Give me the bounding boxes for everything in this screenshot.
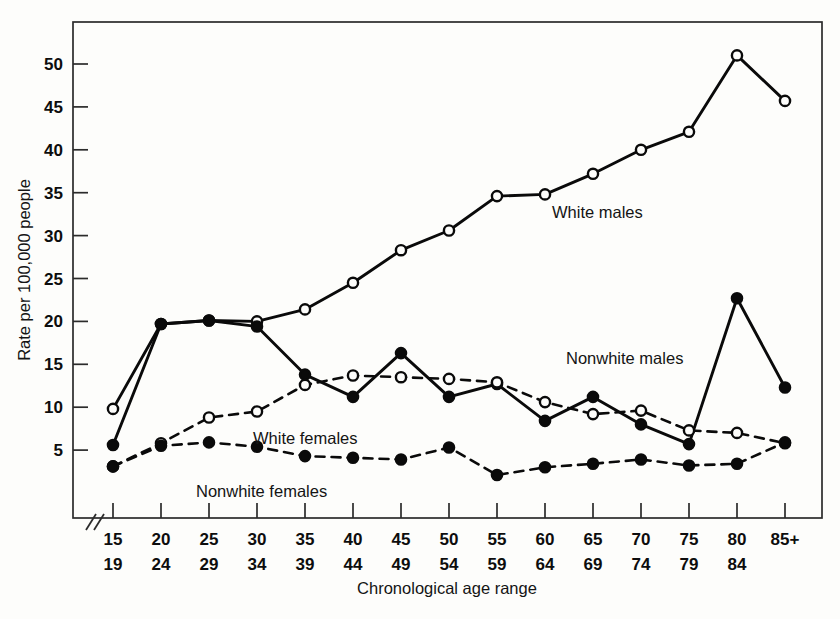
data-point xyxy=(636,145,646,155)
y-tick-label-15: 15 xyxy=(44,355,63,374)
x-tick-label-bottom-6: 49 xyxy=(392,555,411,574)
y-tick-label-5: 5 xyxy=(54,441,63,460)
data-point xyxy=(204,437,214,447)
data-point xyxy=(492,191,502,201)
data-point xyxy=(300,370,310,380)
x-tick-label-top-13: 80 xyxy=(728,530,747,549)
x-tick-label-bottom-5: 44 xyxy=(344,555,363,574)
data-point xyxy=(732,428,742,438)
x-tick-label-bottom-4: 39 xyxy=(296,555,315,574)
y-tick-label-25: 25 xyxy=(44,270,63,289)
data-point xyxy=(732,50,742,60)
data-point xyxy=(588,409,598,419)
data-point xyxy=(684,425,694,435)
data-point xyxy=(780,437,790,447)
data-point xyxy=(636,419,646,429)
data-point xyxy=(732,293,742,303)
data-point xyxy=(588,392,598,402)
x-tick-label-bottom-13: 84 xyxy=(728,555,747,574)
data-point xyxy=(684,439,694,449)
data-point xyxy=(348,278,358,288)
data-point xyxy=(108,461,118,471)
data-point xyxy=(108,404,118,414)
annotation-nonwhite-males: Nonwhite males xyxy=(566,349,683,367)
data-point xyxy=(444,374,454,384)
x-tick-label-top-0: 15 xyxy=(104,530,123,549)
x-tick-label-bottom-9: 64 xyxy=(536,555,555,574)
x-tick-label-bottom-10: 69 xyxy=(584,555,603,574)
x-tick-label-top-6: 45 xyxy=(392,530,411,549)
x-tick-label-bottom-7: 54 xyxy=(440,555,459,574)
data-point xyxy=(252,321,262,331)
data-point xyxy=(540,189,550,199)
y-axis-title: Rate per 100,000 people xyxy=(15,179,33,361)
x-tick-label-bottom-12: 79 xyxy=(680,555,699,574)
data-point xyxy=(396,348,406,358)
x-tick-label-top-8: 55 xyxy=(488,530,507,549)
data-point xyxy=(348,392,358,402)
data-point xyxy=(540,462,550,472)
y-tick-label-45: 45 xyxy=(44,98,63,117)
data-point xyxy=(156,319,166,329)
y-tick-label-10: 10 xyxy=(44,398,63,417)
data-point xyxy=(300,304,310,314)
data-point xyxy=(540,397,550,407)
x-axis-title: Chronological age range xyxy=(357,579,537,597)
data-point xyxy=(636,406,646,416)
x-tick-label-bottom-8: 59 xyxy=(488,555,507,574)
x-tick-label-top-12: 75 xyxy=(680,530,699,549)
data-point xyxy=(252,406,262,416)
data-point xyxy=(444,392,454,402)
x-tick-label-top-4: 35 xyxy=(296,530,315,549)
annotation-white-males: White males xyxy=(552,203,643,221)
data-point xyxy=(540,416,550,426)
data-point xyxy=(636,454,646,464)
x-tick-label-top-14: 85+ xyxy=(771,530,800,549)
x-tick-label-bottom-3: 34 xyxy=(248,555,267,574)
x-tick-label-top-9: 60 xyxy=(536,530,555,549)
y-tick-label-30: 30 xyxy=(44,227,63,246)
data-point xyxy=(588,459,598,469)
data-point xyxy=(492,470,502,480)
annotation-white-females: White females xyxy=(253,429,358,447)
data-point xyxy=(108,440,118,450)
x-tick-label-top-10: 65 xyxy=(584,530,603,549)
y-tick-label-35: 35 xyxy=(44,184,63,203)
x-tick-label-top-5: 40 xyxy=(344,530,363,549)
data-point xyxy=(348,370,358,380)
data-point xyxy=(396,245,406,255)
x-tick-label-top-7: 50 xyxy=(440,530,459,549)
x-tick-label-bottom-2: 29 xyxy=(200,555,219,574)
data-point xyxy=(684,460,694,470)
x-tick-label-bottom-0: 19 xyxy=(104,555,123,574)
data-point xyxy=(780,382,790,392)
data-point xyxy=(396,372,406,382)
data-point xyxy=(588,169,598,179)
data-point xyxy=(732,459,742,469)
annotation-nonwhite-females: Nonwhite females xyxy=(196,482,327,500)
data-point xyxy=(444,225,454,235)
x-tick-label-top-11: 70 xyxy=(632,530,651,549)
data-point xyxy=(348,453,358,463)
data-point xyxy=(396,454,406,464)
chart-figure: White malesNonwhite malesWhite femalesNo… xyxy=(0,0,840,619)
line-chart: White malesNonwhite malesWhite femalesNo… xyxy=(0,0,840,619)
x-tick-label-top-2: 25 xyxy=(200,530,219,549)
y-tick-label-50: 50 xyxy=(44,55,63,74)
data-point xyxy=(300,380,310,390)
data-point xyxy=(684,127,694,137)
data-point xyxy=(204,412,214,422)
x-tick-label-bottom-1: 24 xyxy=(152,555,171,574)
x-tick-label-top-3: 30 xyxy=(248,530,267,549)
data-point xyxy=(156,441,166,451)
x-tick-label-top-1: 20 xyxy=(152,530,171,549)
data-point xyxy=(204,315,214,325)
x-tick-label-bottom-11: 74 xyxy=(632,555,651,574)
y-tick-label-40: 40 xyxy=(44,141,63,160)
data-point xyxy=(444,442,454,452)
y-tick-label-20: 20 xyxy=(44,312,63,331)
data-point xyxy=(492,377,502,387)
data-point xyxy=(780,96,790,106)
data-point xyxy=(300,451,310,461)
